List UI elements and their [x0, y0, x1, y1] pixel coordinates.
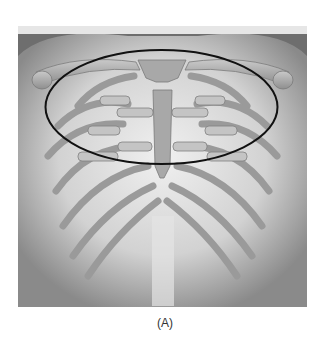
rib-cage-drawing — [18, 26, 307, 307]
figure-caption: (A) — [0, 316, 330, 330]
thorax-illustration — [18, 26, 307, 307]
spine — [152, 216, 174, 306]
